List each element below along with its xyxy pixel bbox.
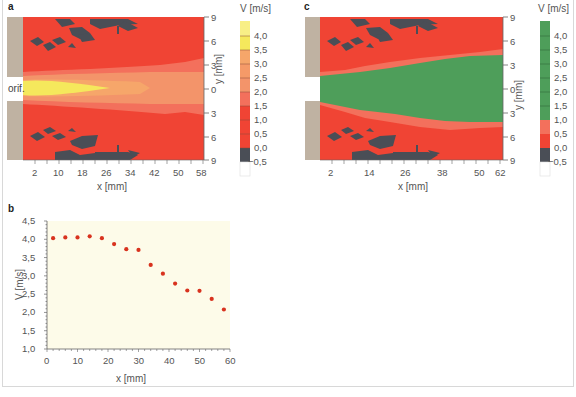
b-ytick: 3,5 [22,253,35,263]
data-point [197,289,201,293]
b-xtick: 0 [44,356,49,366]
b-ytick: 1,5 [22,326,35,336]
data-point [161,272,165,276]
data-point [51,236,55,240]
data-point [185,288,189,292]
data-point [88,234,92,238]
caption-cropped [0,390,576,397]
b-xtick: 40 [164,356,175,366]
b-xtick: 60 [225,356,236,366]
b-ytick: 2,0 [22,307,35,317]
data-point [149,263,153,267]
b-xtick: 20 [103,356,114,366]
panel-b-scatter [0,0,576,397]
data-point [136,248,140,252]
data-point [222,307,226,311]
b-ylabel: V [m/s] [15,269,25,300]
b-ytick: 4,5 [22,216,35,226]
data-point [210,297,214,301]
b-ytick: 4,0 [22,234,35,244]
data-point [124,247,128,251]
data-point [173,281,177,285]
b-xlabel: x [mm] [116,374,146,384]
data-point [100,236,104,240]
b-xtick: 50 [195,356,206,366]
b-xtick: 30 [134,356,145,366]
b-xtick: 10 [73,356,84,366]
b-ytick: 1,0 [22,344,35,354]
data-point [75,235,79,239]
data-point [112,242,116,246]
data-point [63,235,67,239]
